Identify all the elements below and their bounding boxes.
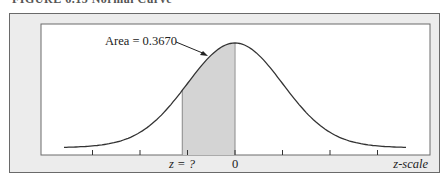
z-unknown-label: z = ? [168, 157, 196, 171]
normal-curve-chart: Area = 0.3670 z = ? 0 z-scale [0, 0, 447, 182]
z-zero-label: 0 [232, 157, 238, 171]
x-axis-label: z-scale [392, 157, 428, 171]
area-annotation: Area = 0.3670 [105, 34, 177, 48]
